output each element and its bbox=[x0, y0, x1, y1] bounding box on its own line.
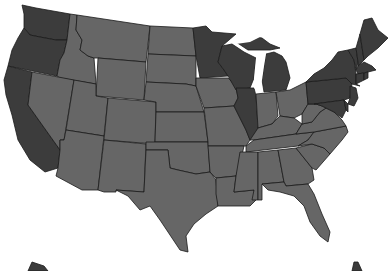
state-NM[interactable] bbox=[98, 140, 146, 192]
state-CT[interactable] bbox=[356, 73, 364, 84]
state-PA[interactable] bbox=[306, 78, 352, 104]
state-SD[interactable] bbox=[146, 54, 196, 86]
state-CO[interactable] bbox=[104, 98, 156, 144]
state-WY[interactable] bbox=[96, 58, 146, 100]
state-MT[interactable] bbox=[76, 15, 150, 62]
us-map bbox=[0, 0, 391, 271]
state-FL[interactable] bbox=[262, 182, 330, 242]
state-RI[interactable] bbox=[364, 72, 368, 80]
state-MI[interactable] bbox=[262, 52, 290, 92]
state-AK-fragment[interactable] bbox=[28, 262, 48, 271]
state-ME[interactable] bbox=[360, 18, 388, 60]
state-HI-fragment[interactable] bbox=[352, 262, 362, 271]
state-KS[interactable] bbox=[155, 112, 208, 142]
state-ND[interactable] bbox=[148, 26, 196, 56]
